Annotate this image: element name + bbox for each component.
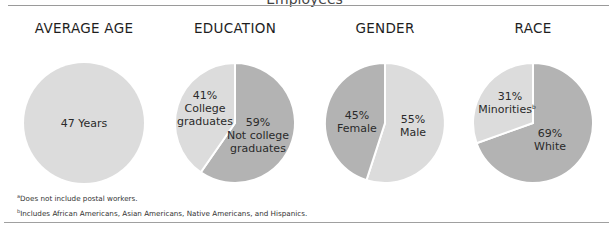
pie-label-notcollege-l2: graduates [230,142,286,155]
bottom-rule [4,222,609,223]
pie-label-female-pct: 45% [345,109,369,122]
pie-label-notcollege-l1: Not college [227,129,289,142]
footnote-a: aDoes not include postal workers. [17,190,307,205]
pie-label-white-l1: White [534,140,566,153]
pie-label-female-l1: Female [337,122,377,135]
pie-label-notcollege-pct: 59% [246,116,270,129]
footnote-marker-b: b [532,103,536,110]
pie-label-minorities-l1: Minoritiesb [478,103,536,116]
pie-label-male-pct: 55% [401,113,425,126]
pie-label-white-pct: 69% [538,127,562,140]
pie-average-age: 47 Years [24,63,144,183]
footnote-b: bIncludes African Americans, Asian Ameri… [17,205,307,220]
pie-label-college-l1: College [184,102,225,115]
pie-education: 41% College graduates 59% Not college gr… [175,63,295,183]
footnote-a-text: Does not include postal workers. [20,194,138,203]
footnotes: aDoes not include postal workers. bInclu… [17,190,307,220]
minorities-text: Minorities [478,103,532,116]
pie-label-college-pct: 41% [193,89,217,102]
pie-gender: 45% Female 55% Male [325,63,445,183]
pie-race: 31% Minoritiesb 69% White [473,63,593,183]
pie-label-college-l2: graduates [177,115,233,128]
pie-label-minorities-pct: 31% [498,90,522,103]
pie-label-male-l1: Male [400,126,426,139]
pie-label-age: 47 Years [61,117,108,130]
footnote-b-text: Includes African Americans, Asian Americ… [20,209,307,218]
